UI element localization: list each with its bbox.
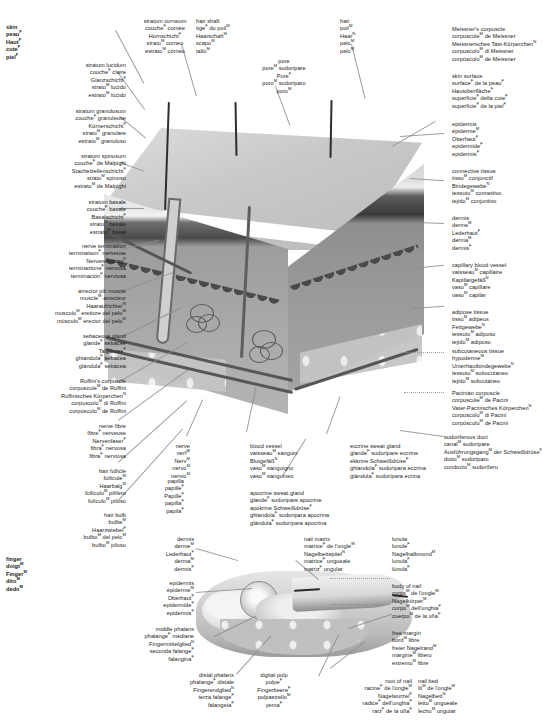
term-line-4: peloM (340, 48, 355, 55)
term-line-4: conductoM sudoríferu (444, 464, 542, 471)
term-line-4: yemaF (236, 702, 312, 709)
hair-shaft-2 (235, 102, 238, 156)
term-line-1: coucheF granuleuse (0, 115, 126, 122)
term-line-1: bordM libre (392, 637, 436, 644)
term-line-0: hair bulb (0, 512, 126, 519)
term-line-4: estratoM lúcido (0, 92, 126, 99)
term-line-1: épidermeM (118, 587, 194, 594)
term-line-1: coucheF claire (0, 69, 126, 76)
label-hair-bulb: hair bulbbulbeMHaarzwiebelFbulboM del pe… (0, 512, 126, 549)
term-line-3: epidermideF (118, 602, 194, 609)
label-hair-shaft: hair shafttigeF du poilMHaarschaftMscapo… (196, 18, 230, 55)
label-nail-matrix: nail matrixmatriceF de l'ongleMNagelbett… (304, 536, 355, 573)
term-line-4: músculoM erector del peloM (0, 318, 126, 325)
term-line-3: tessutoM sottocutaneo (452, 370, 514, 377)
term-nerve-fibre: nerve fibrefibreF nerveuseNervenfaserFfi… (0, 423, 126, 460)
label-digital-pulp: digital pulppulpeFFingerbeereFpolpastrel… (236, 672, 312, 709)
term-line-3: scapoM (196, 40, 230, 47)
term-line-3: corpuscoloM di Meissner (452, 48, 536, 55)
term-line-4: glándulaF sudorípara apocrina (250, 520, 329, 527)
term-line-4: corpúsculoM de Ruffini (0, 408, 126, 415)
term-meissner: Meissner's corpusclecorpusculeM de Meiss… (452, 26, 536, 63)
term-finger: fingerdoigtMFingerMditoMdedoM (6, 556, 27, 593)
term-line-4: terminaciónF nerviosa (0, 273, 126, 280)
term-line-3: corpoM dell'unghiaF (392, 605, 441, 612)
term-ruffini: Ruffini's corpusclecorpusculeM de Ruffin… (0, 378, 126, 415)
term-line-4: falangetaF (130, 702, 234, 709)
skin-block-illustration (104, 110, 438, 432)
term-line-1: tissuM adipeux (452, 316, 495, 323)
leader-line (332, 604, 390, 605)
term-line-3: nervoM (140, 465, 190, 472)
term-line-1: phalangeF médiane (96, 633, 194, 640)
term-line-3: poroM sudoriparo (248, 80, 320, 87)
term-line-3: dottoM sudoriparo (444, 456, 542, 463)
label-connective-tissue: connective tissuetissuM conjonctifBindeg… (452, 168, 501, 205)
term-line-3: stratoM granulare (0, 130, 126, 137)
term-line-4: corpúsculoM de Meissner (452, 56, 536, 63)
term-line-4: lúnulaF (392, 566, 435, 573)
label-pore: poreporeM sudoriparePoreFporoM sudoripar… (248, 58, 320, 95)
term-line-4: tejidoM conjuntivo (452, 198, 501, 205)
label-lunula: lunulalunuleFNagelhalbmondMlunulaFlúnula… (392, 536, 435, 573)
label-hair: hairpoilMHaarNpeloMpeloM (340, 18, 355, 55)
term-nail-bed: nail bedlitM de l'ongleMNagelbettNlettoM… (418, 678, 457, 715)
term-line-3: terminazioneF nervosa (0, 265, 126, 272)
label-nail-bed: nail bedlitM de l'ongleMNagelbettNlettoM… (418, 678, 457, 715)
term-dermis: dermisdermeMLederhautFdermaMdermisF (452, 215, 480, 252)
term-line-1: dermeM (120, 543, 194, 550)
label-blood-vessel: blood vesselvaisseauM sanguinBlutgefäßNv… (250, 443, 298, 480)
term-nerve-termination: nerve terminationterminaisonF nerveuseNe… (0, 243, 126, 280)
term-dermis2: dermisdermeMLederhautFdermaMdermisF (120, 536, 194, 573)
term-line-4: falanginaF (96, 656, 194, 663)
term-line-3: ghiandolaF sudoripara eccrina (350, 465, 426, 472)
term-line-4: epidermisF (452, 151, 483, 158)
term-skin-surface: skin surfacesurfaceF de la peauFHautober… (452, 73, 508, 110)
term-line-4: estratoM basal (0, 229, 126, 236)
label-papilla: papillapapilleFPapilleFpapillaFpapilaF (118, 478, 184, 515)
term-line-1: hypodermeM (452, 355, 514, 362)
label-apocrine-sweat-gland: apocrine sweat glandglandeF sudoripare a… (250, 490, 329, 527)
term-line-4: bulboM piloso (0, 542, 126, 549)
term-capillary: capillary blood vesselvaisseauM capillai… (452, 262, 506, 299)
term-line-3: cuteF (6, 46, 22, 53)
term-blood-vessel: blood vesselvaisseauM sanguinBlutgefäßNv… (250, 443, 298, 480)
label-skin: skinpeauFHautFcuteFpielF (6, 24, 22, 61)
term-sudoriferous-duct: sudoriferous ductcanalM sudoripareAusfüh… (444, 434, 542, 471)
term-line-4: vasoM capilar (452, 292, 506, 299)
term-line-3: ditoM (6, 578, 27, 585)
term-line-4: vasoM sanguíneo (250, 473, 298, 480)
term-line-3: corpuscoloM di Ruffini (0, 400, 126, 407)
term-arrector-pili: arrector pili musclemuscleM arrecteurHaa… (0, 288, 126, 325)
term-pore: poreporeM sudoriparePoreFporoM sudoripar… (248, 58, 320, 95)
term-line-1: surfaceF de la peauF (452, 80, 508, 87)
term-line-1: matriceF de l'ongleM (304, 543, 355, 550)
term-line-3: tessutoM adiposo (452, 331, 495, 338)
term-line-4: estratoM de Malpighi (0, 183, 126, 190)
term-epidermis: epidermisépidermeMOberhautFepidermideFep… (452, 121, 483, 158)
term-line-1: poreM sudoripare (248, 65, 320, 72)
term-stratum-spinosum: stratum spinosumcoucheF de MalpighiStach… (0, 153, 126, 190)
label-body-of-nail: body of nailcorpsM de l'ongleMNagelkörpe… (392, 583, 441, 620)
label-stratum-basale: stratum basalecoucheF basaleBasalschicht… (0, 199, 126, 236)
term-line-1: glandeF sudoripare apocrine (250, 497, 329, 504)
term-hair-follicle: hair folliclefolliculeMHaarbalgMfollicol… (0, 468, 126, 505)
term-line-4: glándulaF sebácea (0, 363, 126, 370)
term-line-3: stratoM spinoso (0, 175, 126, 182)
term-subcutaneous: subcutaneous tissuehypodermeMUnterhautbi… (452, 348, 514, 385)
term-line-3: lunulaF (392, 558, 435, 565)
term-eccrine: eccrine sweat glandglandeF sudoripare ec… (350, 443, 426, 480)
term-stratum-lucidum: stratum lucidumcoucheF claireGlanzschich… (0, 62, 126, 99)
label-stratum-lucidum: stratum lucidumcoucheF claireGlanzschich… (0, 62, 126, 99)
term-line-4: cuerpoM de la uñaF (392, 613, 441, 620)
term-line-4: epidermisF (118, 610, 194, 617)
term-nail-matrix: nail matrixmatriceF de l'ongleMNagelbett… (304, 536, 355, 573)
term-line-3: seconda falangeF (96, 648, 194, 655)
label-root-of-nail: root of nailracineF de l'ongleMNagelwurz… (316, 678, 412, 715)
term-line-4: dedoM (6, 586, 27, 593)
term-free-margin: free marginbordM librefreier NagelrandMm… (392, 630, 436, 667)
label-ruffini-corpuscle: Ruffini's corpusclecorpusculeM de Ruffin… (0, 378, 126, 415)
leader-line (404, 392, 444, 393)
term-stratum-granulosum: stratum granulosumcoucheF granuleuseKörn… (0, 108, 126, 145)
term-line-1: muscleM arrecteur (0, 295, 126, 302)
